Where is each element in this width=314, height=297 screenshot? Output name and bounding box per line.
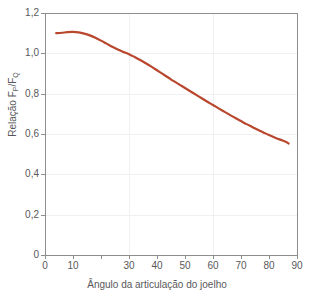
x-tick bbox=[73, 255, 74, 259]
x-tick-label: 0 bbox=[33, 261, 57, 271]
series-path-relacao bbox=[56, 32, 288, 144]
x-tick-label: 80 bbox=[257, 261, 281, 271]
x-axis-tick-labels: 01030405060708090 bbox=[45, 261, 298, 275]
x-tick bbox=[185, 255, 186, 259]
x-tick-label: 10 bbox=[61, 261, 85, 271]
y-tick-label: 1,2 bbox=[25, 8, 39, 18]
x-tick-label: 70 bbox=[229, 261, 253, 271]
data-series-line bbox=[45, 13, 297, 255]
y-axis-title-sub-p: P bbox=[12, 87, 19, 92]
x-axis-title: Ângulo da articulação do joelho bbox=[0, 279, 314, 291]
x-tick-label: 50 bbox=[173, 261, 197, 271]
y-axis-title-mid: /F bbox=[7, 78, 18, 87]
y-axis-title-sub-q: Q bbox=[12, 72, 19, 77]
y-axis-title: Relação FP/FQ bbox=[7, 30, 20, 180]
x-axis-line bbox=[45, 255, 298, 256]
y-axis-title-text: Relação F bbox=[7, 91, 18, 137]
x-tick-label: 90 bbox=[285, 261, 309, 271]
x-tick bbox=[269, 255, 270, 259]
x-tick bbox=[213, 255, 214, 259]
x-tick-label: 30 bbox=[117, 261, 141, 271]
x-tick bbox=[45, 255, 46, 259]
x-tick bbox=[101, 255, 102, 259]
x-tick bbox=[157, 255, 158, 259]
x-tick-label: 40 bbox=[145, 261, 169, 271]
y-tick-label: 0,8 bbox=[25, 89, 39, 99]
y-tick-label: 0 bbox=[33, 250, 39, 260]
y-tick-label: 0,6 bbox=[25, 129, 39, 139]
x-tick bbox=[297, 255, 298, 259]
chart-figure: 00,20,40,60,81,01,2 01030405060708090 Re… bbox=[0, 0, 314, 297]
x-tick-label: 60 bbox=[201, 261, 225, 271]
y-tick-label: 0,2 bbox=[25, 210, 39, 220]
y-tick-label: 0,4 bbox=[25, 169, 39, 179]
x-tick bbox=[241, 255, 242, 259]
plot-right-border bbox=[297, 13, 298, 256]
y-tick-label: 1,0 bbox=[25, 48, 39, 58]
x-tick bbox=[129, 255, 130, 259]
plot-area bbox=[45, 13, 297, 255]
